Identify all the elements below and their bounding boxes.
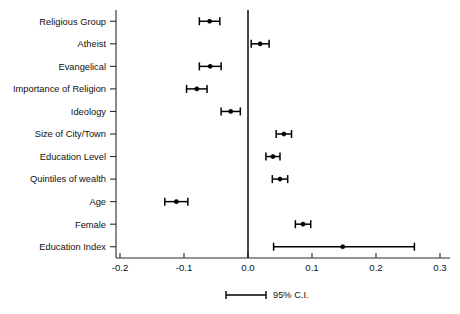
estimate-point-marker xyxy=(229,109,233,113)
y-axis-category-label: Quintiles of wealth xyxy=(30,174,106,184)
x-axis-tick-label: -0.1 xyxy=(176,262,193,273)
estimate-point-marker xyxy=(278,177,282,181)
estimate-point-marker xyxy=(195,87,199,91)
coefficient-plot-figure: Religious GroupAtheistEvangelicalImporta… xyxy=(0,0,460,314)
y-axis-category-label: Religious Group xyxy=(39,17,106,27)
y-axis-category-label: Size of City/Town xyxy=(35,129,106,139)
y-axis-category-label: Importance of Religion xyxy=(13,84,106,94)
estimate-point-marker xyxy=(208,64,212,68)
estimate-point-marker xyxy=(174,200,178,204)
estimate-point-marker xyxy=(282,132,286,136)
y-axis-category-label: Education Index xyxy=(39,242,106,252)
legend-label-95-ci: 95% C.I. xyxy=(273,290,309,300)
y-axis-category-label: Ideology xyxy=(71,107,107,117)
y-axis-category-label: Female xyxy=(75,220,106,230)
estimate-point-marker xyxy=(271,154,275,158)
estimate-point-marker xyxy=(301,222,305,226)
x-axis-tick-label: -0.2 xyxy=(112,262,129,273)
y-axis-category-label: Evangelical xyxy=(58,62,106,72)
x-axis-tick-label: 0.2 xyxy=(369,262,382,273)
coefficient-plot-svg: Religious GroupAtheistEvangelicalImporta… xyxy=(0,0,460,314)
y-axis-category-label: Atheist xyxy=(78,39,107,49)
y-axis-category-label: Age xyxy=(89,197,106,207)
estimate-point-marker xyxy=(341,245,345,249)
estimate-point-marker xyxy=(208,19,212,23)
y-axis-category-label: Education Level xyxy=(40,152,106,162)
estimate-point-marker xyxy=(258,42,262,46)
x-axis-tick-label: 0.3 xyxy=(433,262,446,273)
x-axis-tick-label: 0.0 xyxy=(241,262,254,273)
x-axis-tick-label: 0.1 xyxy=(305,262,318,273)
